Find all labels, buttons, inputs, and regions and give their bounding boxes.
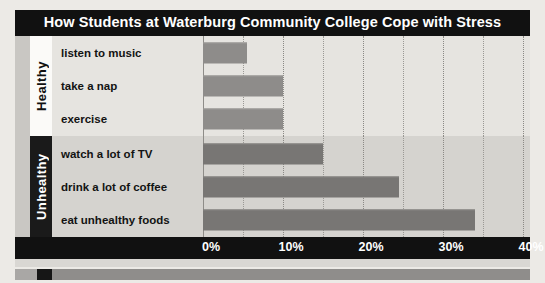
row-label: listen to music: [61, 47, 142, 59]
left-spine: [15, 36, 30, 237]
chart-plot-body: Healthy Unhealthy listen to music take a…: [15, 36, 530, 237]
chart-row: watch a lot of TV: [52, 137, 530, 170]
x-tick-label: 0%: [202, 240, 220, 254]
bar-wrap: [203, 109, 283, 130]
chart-row: listen to music: [52, 36, 530, 69]
bar-listen-to-music: [203, 42, 247, 63]
row-label: take a nap: [61, 80, 117, 92]
row-label: eat unhealthy foods: [61, 214, 170, 226]
row-label: exercise: [61, 113, 107, 125]
row-label: watch a lot of TV: [61, 148, 152, 160]
bar-drink-a-lot-of-coffee: [203, 176, 399, 197]
row-label: drink a lot of coffee: [61, 181, 167, 193]
x-axis-bar: 0%10%20%30%40%: [15, 237, 530, 259]
chart-title: How Students at Waterburg Community Coll…: [15, 14, 530, 30]
footer-left-block: [15, 269, 37, 280]
group-tab-unhealthy-label: Unhealthy: [30, 136, 52, 237]
bar-exercise: [203, 109, 283, 130]
bar-wrap: [203, 75, 283, 96]
chart-row: eat unhealthy foods: [52, 204, 530, 237]
group-tab-healthy: Healthy: [30, 36, 52, 136]
chart-figure: How Students at Waterburg Community Coll…: [15, 10, 530, 267]
chart-row: drink a lot of coffee: [52, 170, 530, 203]
x-tick-label: 30%: [438, 240, 463, 254]
group-tab-unhealthy: Unhealthy: [30, 136, 52, 237]
bar-wrap: [203, 143, 323, 164]
footer-strip: [15, 269, 530, 280]
plot-pane-unhealthy: watch a lot of TV drink a lot of coffee …: [52, 136, 530, 237]
x-tick-label: 40%: [518, 240, 543, 254]
chart-title-bar: How Students at Waterburg Community Coll…: [15, 10, 530, 36]
chart-row: take a nap: [52, 69, 530, 102]
chart-page: How Students at Waterburg Community Coll…: [0, 0, 545, 283]
bar-wrap: [203, 210, 475, 231]
x-tick-label: 20%: [358, 240, 383, 254]
bar-wrap: [203, 176, 399, 197]
bar-take-a-nap: [203, 75, 283, 96]
bar-eat-unhealthy-foods: [203, 210, 475, 231]
chart-row: exercise: [52, 103, 530, 136]
footer-gap-block: [37, 269, 52, 280]
plot-pane-healthy: listen to music take a nap exercise: [52, 36, 530, 136]
group-tab-healthy-label: Healthy: [30, 36, 52, 136]
bar-watch-a-lot-of-tv: [203, 143, 323, 164]
bar-wrap: [203, 42, 247, 63]
x-tick-label: 10%: [278, 240, 303, 254]
